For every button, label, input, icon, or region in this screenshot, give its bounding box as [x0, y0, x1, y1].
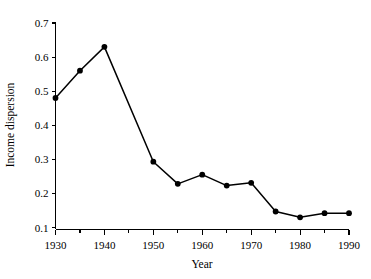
- data-point-1980: [297, 214, 303, 220]
- x-tick-label-1940: 1940: [93, 239, 116, 251]
- chart-figure: 0.10.20.30.40.50.60.7 193019401950196019…: [0, 0, 371, 279]
- y-tick-label-0.3: 0.3: [35, 153, 49, 165]
- data-point-1935: [77, 68, 83, 74]
- data-point-1955: [175, 181, 181, 187]
- y-tick-label-0.7: 0.7: [35, 17, 49, 29]
- data-point-1940: [102, 44, 108, 50]
- y-tick-label-0.5: 0.5: [35, 85, 49, 97]
- x-tick-label-1960: 1960: [191, 239, 214, 251]
- y-tick-label-0.4: 0.4: [35, 119, 49, 131]
- data-point-1930: [53, 95, 59, 101]
- data-point-1950: [150, 159, 156, 165]
- data-point-1970: [248, 180, 254, 186]
- data-point-1985: [322, 210, 328, 216]
- data-point-1960: [199, 172, 205, 178]
- x-tick-label-1970: 1970: [240, 239, 263, 251]
- data-point-1990: [346, 210, 352, 216]
- y-axis-title: Income dispersion: [4, 82, 17, 167]
- y-tick-label-0.6: 0.6: [35, 51, 49, 63]
- x-tick-label-1980: 1980: [289, 239, 312, 251]
- x-tick-label-1990: 1990: [338, 239, 361, 251]
- data-point-1965: [224, 183, 230, 189]
- x-axis-title: Year: [191, 258, 212, 270]
- x-tick-label-1930: 1930: [45, 239, 68, 251]
- y-tick-label-0.2: 0.2: [35, 187, 49, 199]
- x-tick-label-1950: 1950: [142, 239, 165, 251]
- data-point-1975: [273, 209, 279, 215]
- y-tick-label-0.1: 0.1: [35, 222, 49, 234]
- line-chart: 0.10.20.30.40.50.60.7 193019401950196019…: [0, 0, 371, 279]
